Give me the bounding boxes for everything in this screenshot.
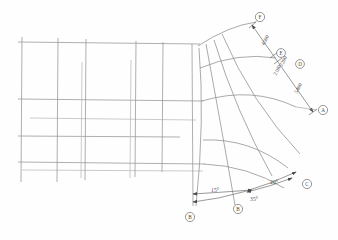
arc-line [203, 140, 288, 168]
radial-line [222, 34, 300, 154]
grid-bubble-a[interactable]: A [318, 105, 327, 114]
grid-bubble-b-mid[interactable]: B [233, 204, 242, 213]
grid-line-horizontal [18, 136, 180, 137]
grid-line-vertical [85, 39, 86, 180]
arc-line [198, 22, 256, 46]
grid-bubble-e[interactable]: E [277, 49, 286, 58]
bubble-label: D [298, 61, 302, 67]
grid-line-vertical [192, 44, 193, 206]
bubble-label: F [259, 14, 262, 20]
grid-line-vertical [162, 42, 163, 172]
dimension-line [252, 25, 313, 112]
grid-line-horizontal [18, 42, 200, 44]
grid-bubble-f[interactable]: F [255, 12, 264, 21]
dimension-label-4500: 4500 [260, 34, 270, 47]
angle-arc-outer [193, 172, 296, 202]
arc-line [200, 56, 276, 68]
grid-line-horizontal [18, 99, 203, 101]
cad-drawing-canvas: 4500 2200 2100 5400 15° 35° 20° F [0, 0, 338, 240]
grid-line-vertical [57, 38, 58, 182]
bubble-label: B [236, 206, 240, 212]
extension-line [296, 107, 317, 110]
radial-line [196, 48, 201, 206]
bubble-label: C [305, 181, 309, 187]
grid-line-horizontal [18, 162, 205, 164]
grid-line-vertical [21, 37, 22, 182]
angle-label-15: 15° [211, 187, 219, 193]
dimension-label-5400: 5400 [293, 82, 303, 95]
radial-line [206, 44, 235, 205]
grid-bubble-b-left[interactable]: B [185, 212, 194, 221]
bubble-label: E [279, 50, 282, 56]
orthogonal-grid [18, 37, 205, 206]
grid-bubbles: F E D A C B B [185, 12, 327, 221]
bubble-label: A [321, 107, 325, 113]
linear-dimension-chain: 4500 2200 2100 5400 [249, 19, 317, 115]
angular-dimension-group: 15° 35° 20° [193, 172, 296, 202]
grid-line-horizontal [22, 170, 203, 171]
grid-bubble-c[interactable]: C [302, 179, 311, 188]
angle-label-35: 35° [250, 196, 258, 202]
grid-bubble-d[interactable]: D [296, 60, 305, 69]
grid-line-horizontal [30, 118, 196, 120]
transverse-arcs [198, 22, 296, 188]
drawing-viewport: 4500 2200 2100 5400 15° 35° 20° F [0, 0, 338, 240]
angle-label-20: 20° [270, 179, 278, 185]
grid-line-vertical [81, 62, 82, 178]
bubble-label: B [188, 214, 192, 220]
grid-line-vertical [130, 60, 131, 178]
grid-line-vertical [135, 41, 136, 177]
